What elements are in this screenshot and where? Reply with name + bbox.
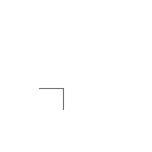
inner-staircase — [39, 11, 139, 111]
figure-container — [0, 0, 152, 152]
line-drawing-canvas — [0, 0, 152, 152]
outer-frame — [11, 13, 134, 141]
